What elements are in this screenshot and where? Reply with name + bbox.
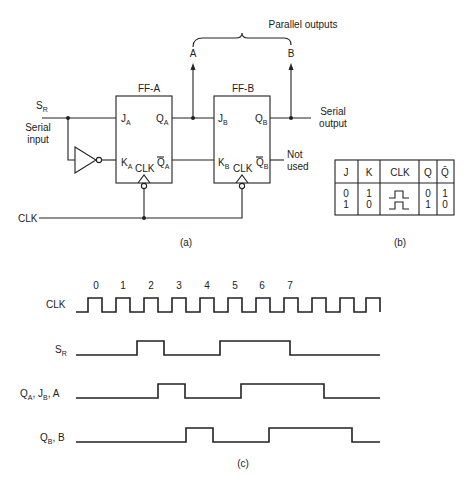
- qb-waveform: [76, 428, 380, 442]
- svg-text:0: 0: [425, 188, 431, 199]
- caption-a: (a): [180, 237, 192, 248]
- serial-output-label-2: output: [319, 118, 347, 129]
- ff-b-clk: CLK: [233, 163, 253, 174]
- ff-a-j: JA: [121, 113, 131, 126]
- output-b-label: B: [288, 48, 295, 59]
- svg-text:5: 5: [232, 280, 238, 291]
- svg-text:1: 1: [366, 188, 372, 199]
- ff-b-q: QB: [255, 113, 268, 126]
- svg-text:1: 1: [442, 188, 448, 199]
- shift-register-diagram: Parallel outputs A B FF-A JA QA KA QA CL…: [0, 0, 471, 485]
- ff-a-clock-bubble: [141, 183, 146, 188]
- serial-input-label-2: input: [27, 134, 49, 145]
- svg-text:Q̄: Q̄: [441, 166, 449, 178]
- inverter-icon: [75, 147, 96, 173]
- svg-text:0: 0: [442, 199, 448, 210]
- ff-b-k: KB: [218, 157, 230, 170]
- svg-text:7: 7: [287, 280, 293, 291]
- svg-text:CLK: CLK: [390, 167, 410, 178]
- svg-text:1: 1: [343, 199, 349, 210]
- svg-text:J: J: [344, 167, 349, 178]
- ff-b-qbar: QB: [256, 157, 269, 170]
- not-used-label-1: Not: [287, 149, 303, 160]
- svg-text:4: 4: [204, 280, 210, 291]
- caption-c: (c): [237, 458, 249, 469]
- svg-text:1: 1: [425, 199, 431, 210]
- svg-text:6: 6: [259, 280, 265, 291]
- truth-table: J K CLK Q Q̄ 0 1 0 1 1 0 1 0: [335, 160, 454, 215]
- svg-text:0: 0: [366, 199, 372, 210]
- parallel-outputs-label: Parallel outputs: [269, 19, 338, 30]
- svg-text:0: 0: [343, 188, 349, 199]
- timing-label-clk: CLK: [46, 299, 66, 310]
- svg-text:0: 0: [93, 280, 99, 291]
- caption-b: (b): [394, 237, 406, 248]
- arrow-up-icon: [191, 63, 196, 70]
- ff-b-j: JB: [218, 113, 228, 126]
- sr-label: SR: [36, 100, 48, 113]
- ff-a-qbar: QA: [157, 157, 170, 170]
- svg-text:3: 3: [176, 280, 182, 291]
- svg-text:K: K: [366, 167, 373, 178]
- ff-b-clock-bubble: [239, 183, 244, 188]
- ff-b-title: FF-B: [232, 83, 255, 94]
- timing-diagram: 0 1 2 3 4 5 6 7 CLK SR QA, JB, A QB, B: [20, 280, 380, 445]
- serial-input-label-1: Serial: [25, 122, 51, 133]
- clk-label: CLK: [18, 213, 38, 224]
- brace: [193, 33, 291, 47]
- svg-text:Q: Q: [424, 167, 432, 178]
- sr-waveform: [76, 341, 380, 355]
- not-used-label-2: used: [287, 161, 309, 172]
- pulse-icon: [389, 191, 409, 198]
- timing-label-qa-jb-a: QA, JB, A: [20, 388, 60, 401]
- ff-a-title: FF-A: [138, 83, 161, 94]
- ff-a-clock-triangle: [138, 175, 150, 183]
- serial-output-label-1: Serial: [320, 106, 346, 117]
- timing-label-qb-b: QB, B: [40, 432, 65, 445]
- clk-wire: [39, 189, 242, 218]
- svg-text:1: 1: [120, 280, 126, 291]
- ff-a-q: QA: [156, 113, 169, 126]
- ff-a-clk: CLK: [135, 163, 155, 174]
- qa-waveform: [76, 384, 380, 398]
- clk-waveform: [76, 298, 380, 312]
- output-a-label: A: [190, 48, 197, 59]
- timing-label-sr: SR: [55, 344, 67, 357]
- pulse-icon: [389, 202, 409, 209]
- svg-text:2: 2: [148, 280, 154, 291]
- ff-a-k: KA: [121, 157, 133, 170]
- arrow-up-icon: [289, 63, 294, 70]
- ff-b-clock-triangle: [236, 175, 248, 183]
